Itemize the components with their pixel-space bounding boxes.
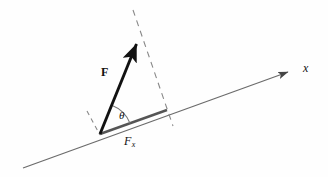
component-segment	[100, 110, 167, 134]
component-fx-label: Fx	[124, 135, 135, 149]
projection-dashed-line	[133, 10, 173, 126]
diagram-canvas	[0, 0, 328, 177]
vector-diagram-figure: F x θ Fx	[0, 0, 328, 177]
x-axis-label: x	[303, 62, 308, 74]
component-base-letter: F	[124, 134, 131, 148]
origin-dashed-line	[87, 111, 100, 135]
x-axis-line	[23, 72, 288, 168]
angle-theta-label: θ	[119, 110, 124, 121]
force-vector-label: F	[101, 66, 109, 78]
component-subscript-letter: x	[132, 140, 136, 149]
